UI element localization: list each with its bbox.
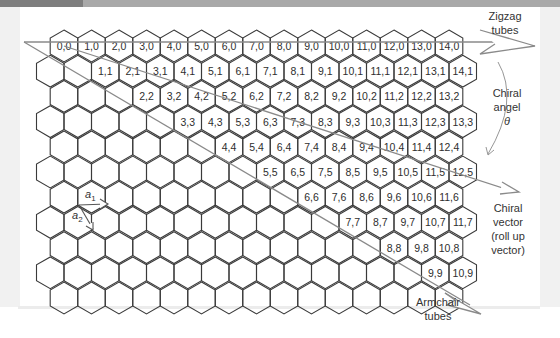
cell-index-label: 12,2 [411, 90, 432, 102]
chiral-vector-label-1: Chiral [494, 202, 523, 214]
cell-index-label: 4,1 [180, 65, 195, 77]
graphene-lattice-diagram: 0,01,02,03,04,05,06,07,08,09,010,011,012… [0, 0, 560, 338]
cell-index-label: 6,1 [235, 65, 250, 77]
cell-index-label: 11,1 [370, 65, 390, 77]
cell-index-label: 8,6 [359, 191, 374, 203]
cell-index-label: 12,4 [439, 141, 460, 153]
cell-index-label: 6,2 [249, 90, 264, 102]
cell-index-label: 2,2 [139, 90, 154, 102]
cell-index-label: 7,4 [304, 141, 319, 153]
cell-index-label: 9,3 [345, 116, 360, 128]
cell-index-label: 7,7 [345, 216, 360, 228]
a2-label: a2 [72, 209, 83, 224]
zigzag-label-1: Zigzag [488, 10, 521, 22]
cell-index-label: 13,2 [439, 90, 460, 102]
cell-index-label: 5,5 [263, 166, 278, 178]
cell-index-label: 6,6 [304, 191, 319, 203]
cell-index-label: 10,5 [398, 166, 419, 178]
cell-index-label: 6,3 [263, 116, 278, 128]
cell-index-label: 11,2 [384, 90, 404, 102]
chiral-angle-label-2: angel [494, 101, 521, 113]
cell-index-label: 14,1 [453, 65, 474, 77]
cell-index-label: 6,5 [290, 166, 305, 178]
cell-index-label: 12,1 [398, 65, 419, 77]
cell-index-label: 10,9 [453, 267, 474, 279]
armchair-label-1: Armchair [416, 296, 460, 308]
cell-index-label: 5,4 [249, 141, 264, 153]
cell-index-label: 8,4 [332, 141, 347, 153]
cell-index-label: 5,1 [208, 65, 223, 77]
cell-index-label: 9,6 [387, 191, 402, 203]
cell-index-label: 8,3 [318, 116, 333, 128]
cell-index-label: 8,5 [345, 166, 360, 178]
cell-index-label: 10,8 [439, 242, 460, 254]
cell-index-label: 9,1 [318, 65, 333, 77]
cell-index-label: 3,2 [167, 90, 182, 102]
a1-label: a1 [85, 188, 96, 203]
cell-index-label: 12,3 [425, 116, 446, 128]
chiral-vector-label-2: vector [493, 216, 523, 228]
cell-index-label: 4,3 [208, 116, 223, 128]
cell-index-label: 7,6 [332, 191, 347, 203]
cell-index-label: 10,2 [356, 90, 377, 102]
cell-index-label: 10,3 [370, 116, 391, 128]
cell-index-label: 9,8 [414, 242, 429, 254]
zigzag-label-2: tubes [492, 24, 519, 36]
cell-index-label: 13,3 [453, 116, 474, 128]
cell-index-label: 6,4 [277, 141, 292, 153]
cell-index-label: 11,6 [439, 191, 459, 203]
cell-index-label: 8,1 [290, 65, 305, 77]
cell-index-label: 3,3 [180, 116, 195, 128]
cell-index-label: 11,7 [453, 216, 473, 228]
cell-index-label: 8,2 [304, 90, 319, 102]
cell-index-label: 10,7 [425, 216, 446, 228]
cell-index-label: 9,9 [428, 267, 443, 279]
chiral-vector-label-3: (roll up [491, 230, 525, 242]
cell-index-label: 8,7 [373, 216, 388, 228]
cell-index-label: 11,4 [412, 141, 432, 153]
cell-index-label: 8,8 [387, 242, 402, 254]
unit-vectors [79, 199, 108, 230]
cell-index-label: 9,2 [332, 90, 347, 102]
chiral-angle-label-1: Chiral [493, 87, 522, 99]
cell-index-label: 7,5 [318, 166, 333, 178]
cell-index-label: 11,3 [398, 116, 418, 128]
chiral-vector-label-4: vector) [491, 244, 525, 256]
cell-index-label: 10,6 [411, 191, 432, 203]
cell-index-label: 9,5 [373, 166, 388, 178]
cell-index-label: 10,1 [343, 65, 364, 77]
cell-index-label: 7,1 [263, 65, 278, 77]
cell-index-label: 4,4 [222, 141, 237, 153]
cell-index-label: 12,5 [453, 166, 474, 178]
armchair-label-2: tubes [425, 310, 452, 322]
cell-index-label: 13,1 [425, 65, 446, 77]
cell-index-label: 9,7 [400, 216, 415, 228]
cell-index-label: 5,3 [235, 116, 250, 128]
theta-symbol: θ [504, 115, 510, 127]
cell-index-label: 1,1 [98, 65, 113, 77]
cell-index-label: 7,2 [277, 90, 292, 102]
